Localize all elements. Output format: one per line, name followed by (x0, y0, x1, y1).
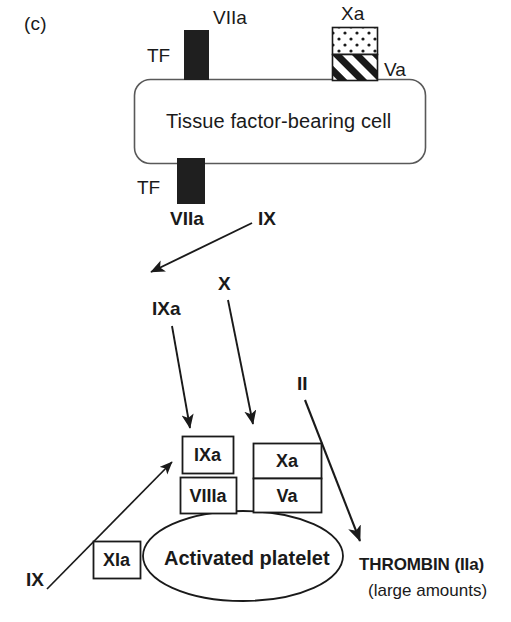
platelet-viiia-label: VIIIa (180, 478, 236, 514)
diagram-vector-layer (0, 0, 511, 622)
label-ix-bottom: IX (26, 570, 44, 589)
panel-letter: (c) (24, 14, 47, 33)
platelet-xa-label: Xa (253, 444, 321, 479)
tf-bar-bottom (177, 158, 205, 204)
label-ixa-mid: IXa (152, 299, 181, 318)
label-viia-top: VIIa (213, 8, 247, 27)
label-ii-mid: II (297, 374, 308, 393)
arrow-ixa-to-tenase (172, 326, 190, 428)
thrombin-amount-label: (large amounts) (368, 582, 487, 599)
tissue-factor-bearing-cell-label: Tissue factor-bearing cell (166, 111, 391, 131)
platelet-xia-label: XIa (93, 542, 140, 579)
activated-platelet-label: Activated platelet (164, 548, 330, 568)
coagulation-cascade-figure: (c) VIIa TF Xa Va Tissue factor-bearing … (0, 0, 511, 622)
label-x-mid: X (218, 274, 231, 293)
platelet-ixa-label: IXa (182, 437, 233, 474)
va-block-hatched (333, 55, 378, 81)
arrow-ix-to-ixa (151, 223, 252, 272)
label-viia-bottom: VIIa (170, 209, 204, 228)
xa-block-dotted (333, 28, 378, 55)
thrombin-output-label: THROMBIN (IIa) (359, 556, 484, 573)
tf-bar-top (184, 30, 209, 80)
label-tf-bottom: TF (137, 178, 160, 197)
label-ix-top: IX (258, 209, 276, 228)
label-xa-surface: Xa (341, 4, 364, 23)
label-tf-top: TF (147, 46, 170, 65)
platelet-va-label: Va (253, 479, 321, 513)
arrow-x-to-prothrombinase (228, 300, 253, 424)
label-va-surface: Va (384, 60, 406, 79)
